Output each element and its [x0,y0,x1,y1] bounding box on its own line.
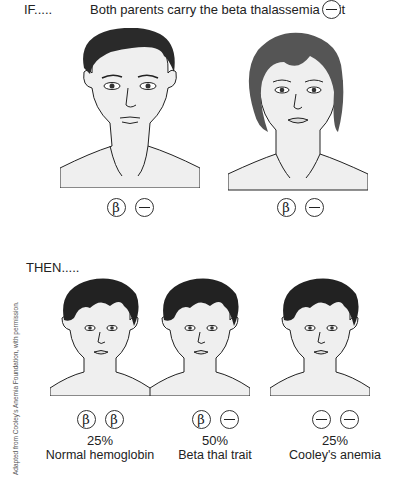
beta-allele-icon: β [105,410,124,429]
father-alleles: β [95,198,165,217]
outcome-label: Normal hemoglobin [40,448,160,462]
then-label: THEN..... [26,260,79,275]
child-face-illustration [270,278,370,396]
minus-allele-icon [322,0,341,19]
child-face-illustration [50,278,150,396]
child-outcome-cooleys: 25% Cooley's anemia [275,410,395,462]
child-outcome-normal: β β 25% Normal hemoglobin [40,410,160,462]
beta-allele-icon: β [107,198,126,217]
premise-text: Both parents carry the beta thalassemia … [90,2,345,17]
beta-allele-icon: β [277,198,296,217]
beta-allele-icon: β [77,410,96,429]
mother-face-illustration [228,32,368,192]
percent: 25% [275,433,395,448]
minus-allele-icon [312,410,331,429]
minus-allele-icon [135,198,154,217]
credit-text: Adapted from Cooley's Anemia Foundation,… [12,301,19,475]
percent: 25% [40,433,160,448]
percent: 50% [155,433,275,448]
beta-allele-icon: β [192,410,211,429]
outcome-label: Cooley's anemia [275,448,395,462]
child-face-illustration [150,278,250,396]
minus-allele-icon [305,198,324,217]
minus-allele-icon [220,410,239,429]
child-outcome-trait: β 50% Beta thal trait [155,410,275,462]
outcome-label: Beta thal trait [155,448,275,462]
if-label: IF..... [24,2,52,17]
minus-allele-icon [340,410,359,429]
father-face-illustration [60,28,200,188]
mother-alleles: β [265,198,335,217]
